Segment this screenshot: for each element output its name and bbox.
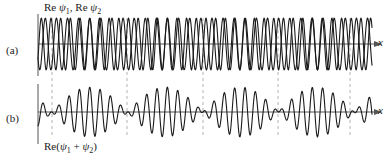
panel-a-curve-label: Re ψ1, Re ψ2 <box>44 1 101 16</box>
wave-curves <box>38 18 372 137</box>
panel-b-curve-label: Re(ψ1 + ψ2) <box>44 140 97 155</box>
figure-canvas <box>0 0 391 160</box>
x-axis-label-panel-a: x <box>378 36 383 48</box>
panel-a-label: (a) <box>6 44 18 56</box>
wave-interference-figure: Re ψ1, Re ψ2 Re(ψ1 + ψ2) (a) (b) x x <box>0 0 391 160</box>
panel-b-label: (b) <box>6 112 19 124</box>
x-axis-panel-a <box>38 41 382 47</box>
x-axis-label-panel-b: x <box>378 104 383 116</box>
